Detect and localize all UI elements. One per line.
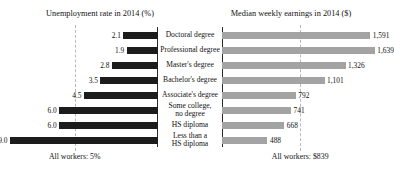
unemployment-row: 3.5	[0, 73, 158, 88]
unemployment-row: 2.8	[0, 58, 158, 73]
right-panel-title: Median weekly earnings in 2014 ($)	[196, 9, 386, 19]
category-label: HS diploma	[158, 121, 222, 129]
earnings-row: 1,326	[222, 58, 386, 73]
unemployment-row: 2.1	[0, 28, 158, 43]
category-label: Some college,no degree	[158, 102, 222, 118]
earnings-value-label: 1,591	[373, 31, 390, 38]
unemployment-row: 4.5	[0, 88, 158, 103]
earnings-bar	[222, 122, 284, 129]
unemployment-row: 9.0	[0, 133, 158, 148]
unemployment-plot: 2.11.92.83.54.56.06.09.0	[0, 27, 158, 147]
earnings-bar	[222, 62, 346, 69]
unemployment-value-label: 9.0	[0, 136, 7, 143]
unemployment-value-label: 6.0	[48, 106, 57, 113]
unemployment-bar	[59, 107, 158, 114]
earnings-bar	[222, 137, 267, 144]
category-label: Doctoral degree	[158, 31, 222, 39]
earnings-value-label: 792	[298, 91, 309, 98]
left-footnote: All workers: 5%	[5, 152, 145, 161]
earnings-value-label: 1,326	[348, 61, 365, 68]
unemployment-row: 6.0	[0, 118, 158, 133]
earnings-value-label: 488	[270, 136, 281, 143]
unemployment-bar	[59, 122, 158, 129]
earnings-row: 488	[222, 133, 386, 148]
earnings-bar	[222, 32, 370, 39]
earnings-value-label: 741	[294, 106, 305, 113]
earnings-bar	[222, 92, 296, 99]
unemployment-row: 1.9	[0, 43, 158, 58]
unemployment-bar	[10, 137, 158, 144]
unemployment-bar	[112, 62, 158, 69]
unemployment-value-label: 2.1	[112, 31, 121, 38]
category-label: Professional degree	[158, 46, 222, 54]
unemployment-value-label: 2.8	[100, 61, 109, 68]
category-label: Master's degree	[158, 61, 222, 69]
earnings-bar	[222, 77, 325, 84]
unemployment-bar	[123, 32, 158, 39]
unemployment-value-label: 6.0	[48, 121, 57, 128]
earnings-bar	[222, 47, 375, 54]
category-label: Bachelor's degree	[158, 76, 222, 84]
earnings-row: 668	[222, 118, 386, 133]
earnings-row: 1,639	[222, 43, 386, 58]
earnings-plot: 1,5911,6391,3261,101792741668488	[222, 27, 386, 147]
earnings-row: 792	[222, 88, 386, 103]
earnings-row: 1,101	[222, 73, 386, 88]
unemployment-row: 6.0	[0, 103, 158, 118]
unemployment-value-label: 1.9	[115, 46, 124, 53]
right-footnote: All workers: $839	[230, 152, 370, 161]
earnings-value-label: 1,639	[377, 46, 394, 53]
earnings-row: 741	[222, 103, 386, 118]
category-label-column: Doctoral degreeProfessional degreeMaster…	[158, 27, 222, 147]
unemployment-bar	[100, 77, 158, 84]
unemployment-bar	[127, 47, 158, 54]
unemployment-value-label: 4.5	[72, 91, 81, 98]
unemployment-value-label: 3.5	[89, 76, 98, 83]
category-label: Associate's degree	[158, 91, 222, 99]
earnings-bar	[222, 107, 291, 114]
earnings-row: 1,591	[222, 28, 386, 43]
category-label: Less than aHS diploma	[158, 132, 222, 148]
unemployment-bar	[84, 92, 158, 99]
earnings-value-label: 668	[287, 121, 298, 128]
left-panel-title: Unemployment rate in 2014 (%)	[0, 9, 200, 19]
earnings-value-label: 1,101	[327, 76, 344, 83]
